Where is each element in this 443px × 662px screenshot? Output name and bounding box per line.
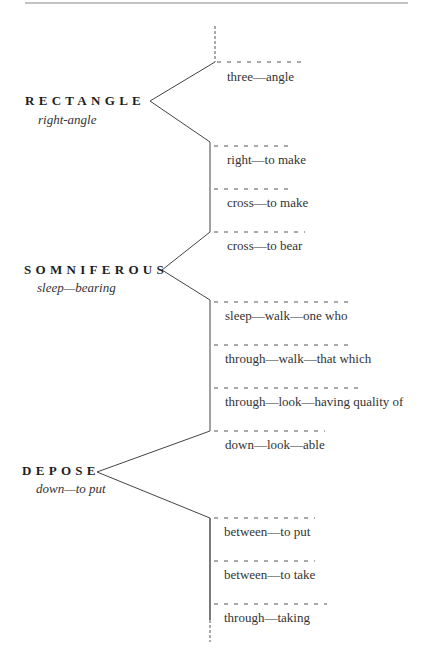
- morpheme-part: between—to put: [224, 524, 310, 540]
- gloss-rectangle: right-angle: [38, 112, 97, 128]
- morpheme-part: through—taking: [224, 610, 310, 626]
- headword-depose: DEPOSE: [22, 463, 100, 479]
- headword-rectangle: RECTANGLE: [25, 93, 145, 109]
- somniferous-bracket: [162, 232, 210, 300]
- depose-bracket: [97, 431, 210, 518]
- rectangle-bracket: [150, 62, 215, 142]
- morpheme-part: through—walk—that which: [225, 351, 371, 367]
- morpheme-part: cross—to bear: [227, 238, 302, 254]
- morpheme-part: sleep—walk—one who: [225, 308, 347, 324]
- morpheme-part: right—to make: [227, 152, 306, 168]
- morpheme-part: three—angle: [227, 69, 294, 85]
- morpheme-part: down—look—able: [225, 437, 325, 453]
- morpheme-part: between—to take: [224, 567, 315, 583]
- gloss-depose: down—to put: [36, 481, 106, 497]
- morpheme-part: through—look—having quality of: [225, 394, 403, 410]
- headword-somniferous: SOMNIFEROUS: [24, 262, 168, 278]
- gloss-somniferous: sleep—bearing: [37, 280, 116, 296]
- morpheme-part: cross—to make: [227, 195, 308, 211]
